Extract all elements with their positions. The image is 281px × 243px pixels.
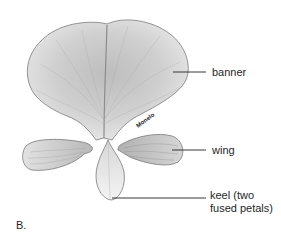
label-banner: banner <box>212 66 246 79</box>
flower-diagram: Monelo banner wing keel (two fused petal… <box>0 0 281 243</box>
wing-petal-left <box>23 139 93 170</box>
banner-petal <box>27 20 188 140</box>
label-keel-line1: keel (two <box>210 189 254 202</box>
label-wing: wing <box>212 144 235 157</box>
label-keel-line2: fused petals) <box>210 202 273 215</box>
panel-label: B. <box>16 219 26 232</box>
